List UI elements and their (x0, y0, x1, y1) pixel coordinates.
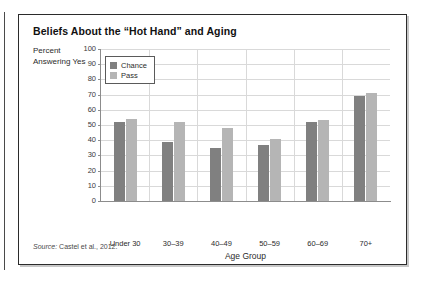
source-note: Source: Castel et al., 2012. (33, 243, 117, 250)
bar-pass-5 (366, 93, 377, 201)
category-separator (294, 49, 295, 201)
y-tick-label: 90 (74, 60, 96, 68)
x-tick-label: 70+ (342, 239, 390, 248)
chart-legend: Chance Pass (105, 56, 155, 84)
y-tick-mark (98, 110, 101, 111)
legend-label-chance: Chance (121, 61, 147, 70)
y-tick-mark (98, 171, 101, 172)
x-tick-label: 30–39 (149, 239, 197, 248)
y-tick-label: 70 (74, 91, 96, 99)
y-tick-mark (98, 49, 101, 50)
bar-pass-4 (318, 120, 329, 201)
bar-pass-2 (222, 128, 233, 201)
y-tick-label: 50 (74, 121, 96, 129)
category-separator (342, 49, 343, 201)
bar-pass-1 (174, 122, 185, 201)
bar-chance-0 (114, 122, 125, 201)
y-tick-label: 20 (74, 167, 96, 175)
y-tick-mark (98, 64, 101, 65)
x-tick-label: 60–69 (294, 239, 342, 248)
y-tick-mark (98, 155, 101, 156)
y-tick-mark (98, 140, 101, 141)
chart-title: Beliefs About the “Hot Hand” and Aging (33, 25, 237, 37)
y-tick-label: 30 (74, 151, 96, 159)
source-prefix: Source: (33, 243, 57, 250)
y-tick-mark (98, 79, 101, 80)
y-tick-label: 0 (74, 197, 96, 205)
bar-pass-0 (126, 119, 137, 201)
y-tick-label: 100 (74, 45, 96, 53)
legend-item-pass: Pass (110, 70, 147, 80)
category-separator (197, 49, 198, 201)
y-tick-label: 10 (74, 182, 96, 190)
y-tick-label: 60 (74, 106, 96, 114)
bar-chance-4 (306, 122, 317, 201)
chart-figure: Beliefs About the “Hot Hand” and Aging P… (0, 0, 427, 283)
category-separator (246, 49, 247, 201)
bar-chance-5 (354, 96, 365, 201)
y-tick-label: 40 (74, 136, 96, 144)
legend-label-pass: Pass (121, 71, 138, 80)
y-tick-mark (98, 95, 101, 96)
bar-pass-3 (270, 139, 281, 201)
legend-swatch-chance-icon (110, 62, 117, 69)
x-axis-title: Age Group (101, 251, 390, 261)
y-tick-mark (98, 125, 101, 126)
y-tick-label: 80 (74, 75, 96, 83)
bar-chance-1 (162, 142, 173, 201)
x-tick-label: 40–49 (197, 239, 245, 248)
x-axis-line (100, 201, 391, 202)
bar-chance-2 (210, 148, 221, 201)
page-left-rule (4, 12, 5, 270)
x-tick-label: 50–59 (246, 239, 294, 248)
bar-chance-3 (258, 145, 269, 201)
legend-swatch-pass-icon (110, 72, 117, 79)
legend-item-chance: Chance (110, 60, 147, 70)
y-tick-mark (98, 201, 101, 202)
chart-card: Beliefs About the “Hot Hand” and Aging P… (18, 14, 407, 265)
y-tick-mark (98, 186, 101, 187)
source-text: Castel et al., 2012. (59, 243, 117, 250)
